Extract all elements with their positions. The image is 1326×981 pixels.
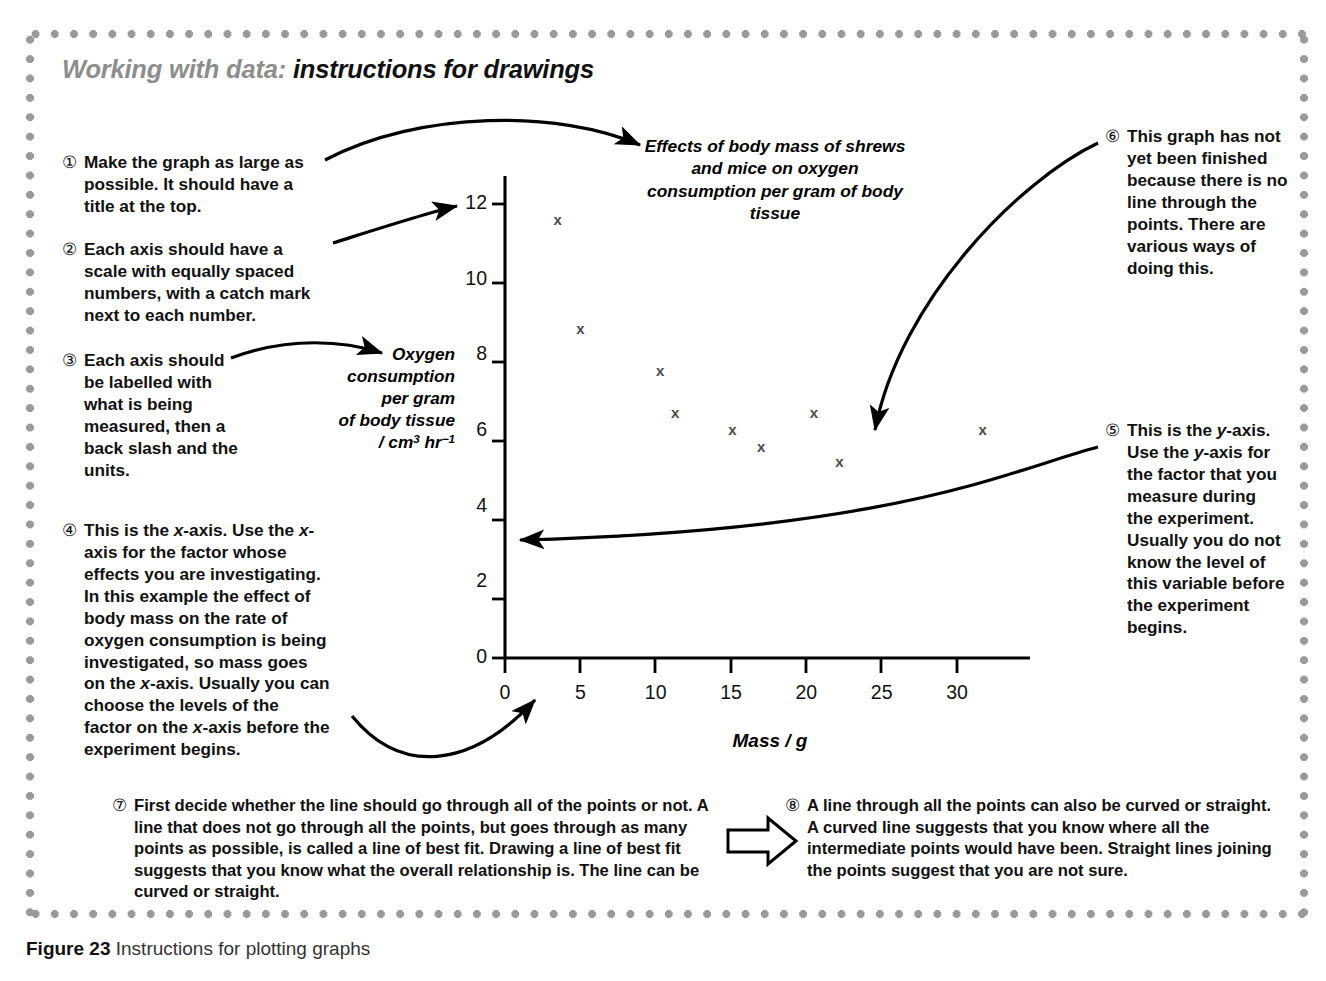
note-number-5: ⑤ bbox=[1105, 420, 1125, 441]
y-tick-label: 6 bbox=[447, 418, 487, 441]
note-number-7: ⑦ bbox=[112, 795, 132, 816]
note-text-4: This is the x-axis. Use the x-axis for t… bbox=[84, 520, 330, 761]
border-bottom-dots bbox=[26, 910, 1308, 918]
note-text-1: Make the graph as large as possible. It … bbox=[84, 152, 324, 218]
y-tick-label: 12 bbox=[447, 191, 487, 214]
note-text-2: Each axis should have a scale with equal… bbox=[84, 239, 330, 327]
instruction-note-4: ④ This is the x-axis. Use the x-axis for… bbox=[62, 520, 330, 761]
panel-heading-lead: Working with data: bbox=[62, 55, 286, 83]
y-axis-label-line4: of body tissue bbox=[338, 410, 455, 430]
border-left-dots bbox=[26, 30, 34, 918]
y-tick-label: 4 bbox=[447, 494, 487, 517]
instruction-note-2: ② Each axis should have a scale with equ… bbox=[62, 239, 330, 327]
instruction-note-7: ⑦ First decide whether the line should g… bbox=[112, 795, 712, 903]
figure-caption-text: Instructions for plotting graphs bbox=[116, 938, 371, 959]
x-tick-label: 0 bbox=[485, 681, 525, 704]
note-number-6: ⑥ bbox=[1105, 126, 1125, 147]
x-axis-label: Mass / g bbox=[700, 730, 840, 752]
y-axis-label-line2: consumption bbox=[347, 366, 455, 386]
y-axis-label: Oxygen consumption per gram of body tiss… bbox=[330, 343, 455, 453]
y-tick-label: 10 bbox=[447, 267, 487, 290]
x-tick-label: 5 bbox=[560, 681, 600, 704]
note-text-3: Each axis should be labelled with what i… bbox=[84, 350, 242, 482]
instruction-note-3: ③ Each axis should be labelled with what… bbox=[62, 350, 242, 482]
instruction-note-5: ⑤ This is the y-axis. Use the y-axis for… bbox=[1105, 420, 1285, 639]
instruction-note-1: ① Make the graph as large as possible. I… bbox=[62, 152, 324, 218]
note-number-4: ④ bbox=[62, 520, 82, 541]
panel-heading-rest: instructions for drawings bbox=[293, 55, 594, 83]
instruction-note-6: ⑥ This graph has not yet been finished b… bbox=[1105, 126, 1290, 279]
figure-caption-label: Figure 23 bbox=[26, 938, 110, 959]
x-tick-label: 10 bbox=[636, 681, 676, 704]
x-tick-label: 25 bbox=[862, 681, 902, 704]
panel-heading: Working with data: instructions for draw… bbox=[62, 55, 594, 84]
note-text-8: A line through all the points can also b… bbox=[807, 795, 1285, 881]
chart-title: Effects of body mass of shrews and mice … bbox=[640, 135, 910, 224]
note-text-7: First decide whether the line should go … bbox=[134, 795, 712, 903]
y-tick-label: 2 bbox=[447, 569, 487, 592]
instruction-note-8: ⑧ A line through all the points can also… bbox=[785, 795, 1285, 881]
note-number-3: ③ bbox=[62, 350, 82, 371]
note-number-2: ② bbox=[62, 239, 82, 260]
border-right-dots bbox=[1300, 30, 1308, 918]
note-number-1: ① bbox=[62, 152, 82, 173]
border-top-dots bbox=[26, 30, 1308, 38]
y-tick-label: 0 bbox=[447, 645, 487, 668]
figure-caption: Figure 23 Instructions for plotting grap… bbox=[26, 938, 370, 960]
x-tick-label: 20 bbox=[786, 681, 826, 704]
y-tick-label: 8 bbox=[447, 342, 487, 365]
y-axis-label-units: / cm3 hr−1 bbox=[379, 432, 455, 452]
y-axis-label-line3: per gram bbox=[381, 388, 455, 408]
note-number-8: ⑧ bbox=[785, 795, 805, 816]
note-text-5: This is the y-axis. Use the y-axis for t… bbox=[1127, 420, 1285, 639]
x-tick-label: 30 bbox=[937, 681, 977, 704]
y-axis-label-line1: Oxygen bbox=[392, 344, 455, 364]
note-text-6: This graph has not yet been finished bec… bbox=[1127, 126, 1290, 279]
x-tick-label: 15 bbox=[711, 681, 751, 704]
